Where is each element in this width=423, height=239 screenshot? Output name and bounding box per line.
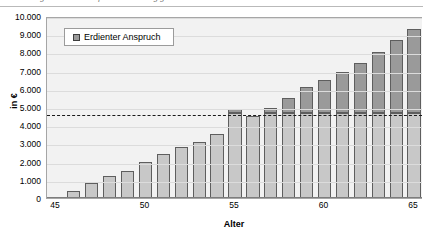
y-tick-label: 3.000 [20,140,41,149]
y-axis-ticks: 01.0002.0003.0004.0005.0006.0007.0008.00… [0,0,44,239]
bar [175,147,188,198]
bar-segment-lower [157,154,170,198]
y-tick-label: 1.000 [20,177,41,186]
gridline [47,54,422,55]
bar-segment-lower [175,147,188,198]
x-tick-label: 50 [140,201,149,210]
gridline [47,182,422,183]
caption-divider [0,6,423,7]
bar-segment-lower [85,183,98,198]
bar [372,52,385,198]
y-tick-label: 7.000 [20,68,41,77]
chart-container: Abbildung: Erdienter Anspruch in Abhängi… [0,0,423,239]
x-axis-line [47,197,422,198]
bar [318,80,331,198]
bar [193,142,206,198]
y-tick-label: 5.000 [20,104,41,113]
x-axis-ticks: 4550556065 [46,201,422,215]
reference-line [47,115,422,116]
bar-segment-upper [390,40,403,114]
gridline [47,18,422,19]
chart-legend: Erdienter Anspruch [64,28,174,46]
y-tick-label: 0 [36,195,41,204]
bar [282,98,295,198]
bar-segment-lower [372,113,385,198]
bar [246,116,259,198]
bar-segment-lower [282,113,295,198]
bar-segment-lower [264,113,277,198]
y-tick-label: 4.000 [20,122,41,131]
gridline [47,109,422,110]
bar-segment-upper [336,72,349,113]
gridline [47,127,422,128]
y-tick-label: 9.000 [20,31,41,40]
bar-segment-lower [228,113,241,198]
bar [121,171,134,198]
gridline [47,91,422,92]
bar [264,108,277,198]
y-tick-label: 8.000 [20,49,41,58]
bar [354,63,367,198]
y-tick-label: 2.000 [20,159,41,168]
x-tick-label: 65 [408,201,417,210]
x-axis-title: Alter [46,219,422,229]
bar-segment-lower [336,113,349,198]
bar-segment-lower [210,134,223,198]
bar-segment-lower [318,113,331,198]
x-tick-label: 60 [319,201,328,210]
bar-segment-lower [390,113,403,198]
x-tick-label: 55 [229,201,238,210]
bar-segment-upper [407,29,420,114]
bar [157,154,170,198]
bar-segment-upper [354,63,367,113]
legend-label: Erdienter Anspruch [84,32,161,42]
bar-segment-lower [121,171,134,198]
y-tick-label: 6.000 [20,86,41,95]
bar-segment-upper [372,52,385,113]
bar-segment-lower [354,113,367,198]
legend-square-icon [73,34,80,41]
bar [228,109,241,198]
bar-segment-lower [407,113,420,198]
bar-segment-upper [282,98,295,113]
bar [103,176,116,198]
bar-segment-lower [103,176,116,198]
bar-segment-lower [246,116,259,198]
bar-segment-lower [193,142,206,198]
bar [139,162,152,198]
x-tick-label: 45 [50,201,59,210]
gridline [47,73,422,74]
bar-segment-lower [139,162,152,198]
bar-segment-lower [300,113,313,198]
bar [85,183,98,198]
gridline [47,145,422,146]
y-tick-label: 10.000 [15,13,41,22]
bar [390,40,403,198]
gridline [47,164,422,165]
bar [210,134,223,198]
